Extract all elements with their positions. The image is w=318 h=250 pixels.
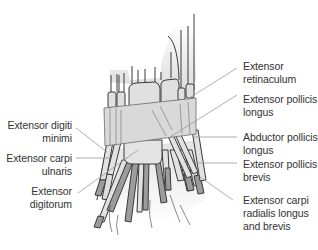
label-line: Abductor pollicis (243, 131, 318, 144)
label-extensor-digiti-minimi: Extensor digiti minimi (8, 119, 72, 145)
label-line: brevis (243, 171, 317, 184)
label-extensor-pollicis-longus: Extensor pollicis longus (243, 93, 317, 119)
label-line: Extensor digiti (8, 119, 72, 132)
digitorum-sheath (124, 140, 162, 164)
label-line: longus (243, 144, 318, 157)
label-extensor-carpi-ulnaris: Extensor carpi ulnaris (6, 152, 72, 178)
label-extensor-digitorum: Extensor digitorum (30, 185, 72, 211)
label-line: ulnaris (6, 165, 72, 178)
label-line: Extensor pollicis (243, 158, 317, 171)
label-extensor-carpi-radialis: Extensor carpi radialis longus and brevi… (243, 194, 309, 233)
label-line: Extensor (30, 185, 72, 198)
label-line: digitorum (30, 198, 72, 211)
label-line: Extensor carpi (243, 194, 309, 207)
upper-tendon-shading (110, 20, 196, 90)
label-line: and brevis (243, 220, 309, 233)
label-line: retinaculum (243, 73, 296, 86)
label-line: Extensor pollicis (243, 93, 317, 106)
anatomy-diagram: Extensor digiti minimi Extensor carpi ul… (0, 0, 318, 250)
label-abductor-pollicis-longus: Abductor pollicis longus (243, 131, 318, 157)
label-line: longus (243, 106, 317, 119)
label-line: Extensor carpi (6, 152, 72, 165)
label-line: minimi (8, 132, 72, 145)
label-extensor-pollicis-brevis: Extensor pollicis brevis (243, 158, 317, 184)
label-line: radialis longus (243, 207, 309, 220)
label-line: Extensor (243, 60, 296, 73)
label-extensor-retinaculum: Extensor retinaculum (243, 60, 296, 86)
